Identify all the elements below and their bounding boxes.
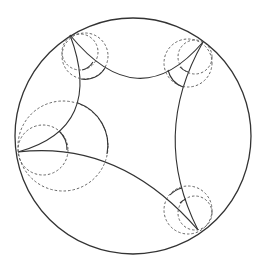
horocycle-arc-topright-small [180,67,188,72]
horocycle-arc-left-large [78,103,108,154]
geodesic-c-d [18,151,198,230]
horocycle-topright-large [164,39,212,87]
horocycle-arc-topright-large [168,70,183,87]
boundary-circle [15,18,251,254]
horocycle-left-large [18,101,108,191]
hyperbolic-disk-diagram [0,0,261,271]
geodesic-b-d [175,42,203,230]
geodesic-a-b [70,35,203,78]
horocycle-topleft-large [62,33,108,79]
horocycle-arc-left-small [59,131,67,150]
horocycle-arc-bottomright-small [180,199,186,203]
horocycle-topleft-small [62,34,98,70]
